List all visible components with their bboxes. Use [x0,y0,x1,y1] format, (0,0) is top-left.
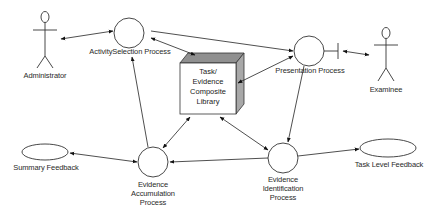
evidence-identification-process-circle [268,143,298,173]
presentation-process-circle [294,36,324,66]
admin-activity-arrow [61,31,113,39]
identification-tasklevel-arrow [298,149,359,156]
presentation-interface-icon [324,43,338,59]
library-identification-arrow [220,117,268,150]
evidence-accumulation-process-circle [138,147,168,177]
summary-feedback-label: Summary Feedback [8,163,84,172]
identification-accumulation-arrow [170,158,268,162]
accumulation-activity-arrow [132,57,148,147]
library-label: Task/ Evidence Composite Library [180,67,236,107]
diagram-canvas [0,0,441,216]
task-level-feedback-ellipse [360,139,416,157]
administrator-label: Administrator [15,71,75,80]
evidence-identification-label: Evidence Identification Process [253,175,313,202]
four-process-architecture-diagram: Administrator Examinee ActivitySelection… [0,0,441,216]
evidence-accumulation-label: Evidence Accumulation Process [123,180,183,207]
examinee-actor-icon [374,28,398,82]
accumulation-summary-arrow [70,153,137,162]
presentation-examinee-arrow [343,51,369,55]
library-accumulation-arrow [163,117,190,148]
activity-selection-label: ActivitySelection Process [84,47,176,56]
summary-feedback-ellipse [22,144,68,160]
administrator-actor-icon [33,12,57,69]
activity-selection-process-circle [114,18,144,48]
task-level-feedback-label: Task Level Feedback [348,160,430,169]
presentation-label: Presentation Process [268,66,352,75]
examinee-label: Examinee [360,85,412,94]
presentation-identification-arrow [288,66,304,142]
